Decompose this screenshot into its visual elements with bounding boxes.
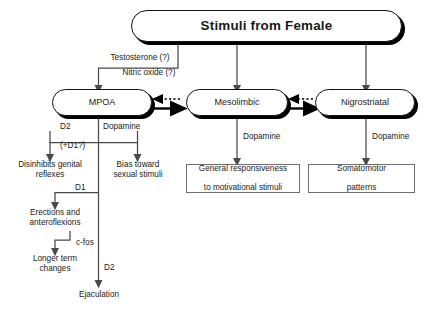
label-dopamine-nigrostriatal: Dopamine bbox=[372, 132, 409, 142]
somatomotor-line-2: patterns bbox=[337, 183, 386, 193]
label-d2-left-text: D2 bbox=[60, 122, 70, 131]
node-general-responsiveness[interactable]: General responsiveness to motivational s… bbox=[186, 164, 300, 193]
diagram-canvas: Stimuli from Female MPOA Mesolimbic Nigr… bbox=[0, 0, 431, 320]
somatomotor-line-1: Somatomotor bbox=[337, 164, 386, 174]
general-line-1: General responsiveness bbox=[199, 164, 287, 174]
node-stimuli-from-female[interactable]: Stimuli from Female bbox=[131, 10, 402, 42]
node-stimuli-label: Stimuli from Female bbox=[201, 18, 333, 33]
edge-stimuli-to-mpoa bbox=[99, 42, 179, 89]
label-plus-d1-text: (+D1?) bbox=[60, 141, 85, 150]
label-d2-ejaculation: D2 bbox=[104, 263, 114, 273]
node-nigrostriatal-label: Nigrostriatal bbox=[341, 97, 389, 107]
label-dopamine-nigrostriatal-text: Dopamine bbox=[372, 132, 409, 141]
label-d2-ejaculation-text: D2 bbox=[104, 263, 114, 272]
label-dopamine-mesolimbic: Dopamine bbox=[243, 132, 280, 142]
node-mesolimbic-label: Mesolimbic bbox=[214, 97, 259, 107]
label-testosterone: Testosterone (?) bbox=[97, 53, 183, 63]
node-somatomotor-patterns[interactable]: Somatomotor patterns bbox=[308, 164, 415, 193]
leaf-bias-toward-sexual-stimuli: Bias toward sexual stimuli bbox=[102, 160, 174, 180]
label-dopamine-mpoa: Dopamine bbox=[103, 122, 140, 132]
edge-d1-to-erections bbox=[55, 193, 99, 207]
label-nitric-oxide-text: Nitric oxide (?) bbox=[123, 68, 176, 77]
node-general-responsiveness-label: General responsiveness to motivational s… bbox=[199, 164, 287, 194]
node-mpoa-label: MPOA bbox=[89, 97, 116, 107]
disinhibits-line-2: reflexes bbox=[36, 170, 65, 179]
label-plus-d1: (+D1?) bbox=[60, 141, 85, 151]
label-nitric-oxide: Nitric oxide (?) bbox=[106, 68, 192, 78]
leaf-longer-term-changes: Longer term changes bbox=[10, 254, 100, 274]
label-d1: D1 bbox=[75, 183, 85, 193]
node-mesolimbic[interactable]: Mesolimbic bbox=[186, 89, 288, 116]
bias-line-1: Bias toward bbox=[117, 160, 160, 169]
leaf-ejaculation: Ejaculation bbox=[53, 290, 145, 300]
edge-cfos-to-longer-term bbox=[55, 231, 70, 252]
node-somatomotor-label: Somatomotor patterns bbox=[337, 164, 386, 194]
longer-line-2: changes bbox=[40, 264, 71, 273]
label-c-fos: c-fos bbox=[76, 238, 94, 248]
node-nigrostriatal[interactable]: Nigrostriatal bbox=[315, 89, 415, 116]
erections-line-2: anteroflexions bbox=[30, 218, 81, 227]
node-mpoa[interactable]: MPOA bbox=[52, 89, 152, 116]
ejaculation-text: Ejaculation bbox=[79, 290, 119, 299]
disinhibits-line-1: Disinhibits genital bbox=[18, 160, 82, 169]
erections-line-1: Erections and bbox=[30, 208, 80, 217]
label-dopamine-mpoa-text: Dopamine bbox=[103, 122, 140, 131]
label-d2-left: D2 bbox=[60, 122, 70, 132]
general-line-2: to motivational stimuli bbox=[199, 183, 287, 193]
label-dopamine-mesolimbic-text: Dopamine bbox=[243, 132, 280, 141]
label-d1-text: D1 bbox=[75, 183, 85, 192]
leaf-disinhibits-genital-reflexes: Disinhibits genital reflexes bbox=[2, 160, 98, 180]
leaf-erections-and-anteroflexions: Erections and anteroflexions bbox=[8, 208, 102, 228]
label-testosterone-text: Testosterone (?) bbox=[110, 53, 169, 62]
label-c-fos-text: c-fos bbox=[76, 238, 94, 247]
longer-line-1: Longer term bbox=[33, 254, 77, 263]
bias-line-2: sexual stimuli bbox=[113, 170, 162, 179]
